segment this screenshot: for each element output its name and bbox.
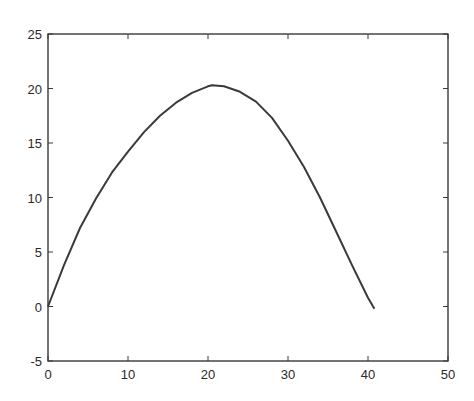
x-tick-label: 30 (281, 367, 295, 382)
y-tick-label: 20 (28, 82, 42, 97)
y-axis-tick-labels: 2520151050-5 (28, 27, 42, 369)
y-tick-label: 5 (35, 245, 42, 260)
x-tick-label: 20 (201, 367, 215, 382)
y-tick-label: -5 (30, 354, 42, 369)
x-tick-label: 40 (361, 367, 375, 382)
y-tick-label: 10 (28, 191, 42, 206)
x-tick-label: 10 (121, 367, 135, 382)
line-chart: 01020304050 2520151050-5 (0, 0, 474, 401)
y-tick-label: 25 (28, 27, 42, 42)
y-tick-label: 0 (35, 300, 42, 315)
plot-area (48, 34, 448, 361)
x-tick-label: 0 (44, 367, 51, 382)
x-axis-tick-labels: 01020304050 (44, 367, 455, 382)
x-tick-label: 50 (441, 367, 455, 382)
y-tick-label: 15 (28, 136, 42, 151)
